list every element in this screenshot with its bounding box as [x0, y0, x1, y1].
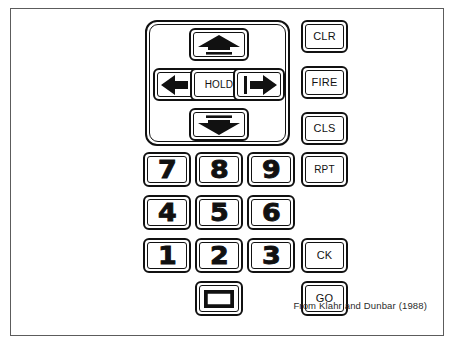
digit-key-6-label: 6 [262, 201, 281, 225]
digit-key-5-label: 5 [210, 201, 229, 225]
digit-key-9[interactable]: 9 [247, 152, 295, 187]
digit-key-3[interactable]: 3 [247, 238, 295, 273]
rpt-key[interactable]: RPT [301, 152, 348, 187]
hold-key-label: HOLD [205, 80, 234, 90]
digit-key-5[interactable]: 5 [195, 195, 243, 230]
up-arrow-key[interactable] [189, 28, 249, 61]
ck-key-label: CK [317, 250, 333, 261]
fire-key-label: FIRE [312, 77, 338, 88]
arrow-up-icon [197, 34, 241, 56]
digit-key-8-label: 8 [210, 158, 229, 182]
down-arrow-key[interactable] [189, 108, 249, 141]
digit-key-2[interactable]: 2 [195, 238, 243, 273]
direction-pad-enclosure: HOLD [145, 20, 290, 146]
digit-key-7[interactable]: 7 [143, 152, 191, 187]
arrow-right-icon [240, 74, 278, 96]
digit-key-4-label: 4 [158, 201, 177, 225]
digit-key-2-label: 2 [210, 244, 229, 268]
rectangle-outline-icon [204, 290, 234, 308]
cls-key-label: CLS [314, 123, 336, 134]
cls-key[interactable]: CLS [301, 112, 348, 145]
digit-key-8[interactable]: 8 [195, 152, 243, 187]
digit-key-1[interactable]: 1 [143, 238, 191, 273]
clr-key[interactable]: CLR [301, 20, 348, 53]
figure-frame: HOLD 7 8 9 [10, 8, 444, 336]
arrow-down-icon [197, 114, 241, 136]
digit-key-1-label: 1 [158, 244, 177, 268]
clr-key-label: CLR [313, 31, 336, 42]
digit-key-7-label: 7 [158, 158, 177, 182]
digit-key-4[interactable]: 4 [143, 195, 191, 230]
rpt-key-label: RPT [314, 165, 335, 175]
ck-key[interactable]: CK [301, 238, 348, 273]
blank-rectangle-key[interactable] [195, 281, 243, 316]
right-arrow-key[interactable] [233, 68, 285, 101]
keypad-diagram: HOLD 7 8 9 [11, 9, 445, 337]
cropped-header-text: … [34, 0, 44, 2]
figure-caption: From Klahr and Dunbar (1988) [293, 300, 427, 311]
digit-key-3-label: 3 [262, 244, 281, 268]
fire-key[interactable]: FIRE [301, 66, 348, 99]
cropped-header-strip: … [0, 0, 459, 7]
digit-key-6[interactable]: 6 [247, 195, 295, 230]
digit-key-9-label: 9 [262, 158, 281, 182]
